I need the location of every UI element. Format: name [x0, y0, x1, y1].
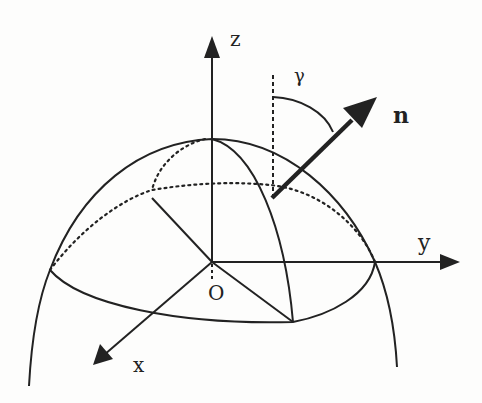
y-axis-arrowhead — [440, 254, 460, 270]
meridian-back — [152, 139, 205, 190]
origin-label: O — [208, 281, 224, 305]
gamma-arc — [273, 97, 333, 132]
gamma-label: γ — [294, 65, 305, 86]
z-axis-arrowhead — [204, 36, 220, 58]
z-axis-label: z — [230, 27, 241, 51]
normal-vector-label: n — [393, 102, 409, 128]
radius-back — [152, 198, 212, 262]
x-axis — [104, 262, 212, 355]
y-axis-label: y — [417, 230, 431, 255]
x-axis-label: x — [133, 353, 145, 377]
hemisphere-diagram: z γ n y O x — [0, 0, 482, 403]
x-axis-arrowhead — [93, 344, 113, 365]
